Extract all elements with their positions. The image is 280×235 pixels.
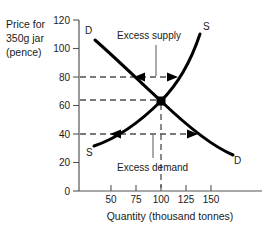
y-tick-label-120: 120: [53, 15, 70, 26]
supply-curve-label-bottom: S: [86, 147, 93, 158]
x-tick-label-150: 150: [203, 194, 220, 205]
y-tick-label-60: 60: [59, 100, 71, 111]
y-axis-title-line-1: Price for: [6, 18, 46, 30]
x-axis-title: Quantity (thousand tonnes): [107, 210, 234, 222]
y-tick-label-0: 0: [64, 186, 70, 197]
x-tick-label-75: 75: [130, 194, 142, 205]
supply-curve-label-top: S: [203, 21, 210, 32]
x-tick-label-50: 50: [105, 194, 117, 205]
y-axis-title-line-2: 350g jar: [6, 32, 44, 44]
y-tick-label-20: 20: [59, 157, 71, 168]
y-tick-label-40: 40: [59, 129, 71, 140]
y-axis-title: Price for 350g jar (pence): [6, 18, 46, 58]
demand-curve-label-top: D: [85, 25, 92, 36]
demand-curve-label-bottom: D: [234, 155, 241, 166]
excess-supply-label: Excess supply: [117, 30, 181, 41]
y-tick-label-80: 80: [59, 72, 71, 83]
x-tick-label-100: 100: [153, 194, 170, 205]
excess-demand-label: Excess demand: [117, 162, 188, 173]
equilibrium-marker: [157, 97, 166, 106]
x-tick-label-125: 125: [178, 194, 195, 205]
y-tick-label-100: 100: [53, 43, 70, 54]
supply-demand-chart: 120 100 80 60 40 20 0 Price for 350g jar…: [0, 0, 280, 235]
y-axis-title-line-3: (pence): [6, 46, 42, 58]
